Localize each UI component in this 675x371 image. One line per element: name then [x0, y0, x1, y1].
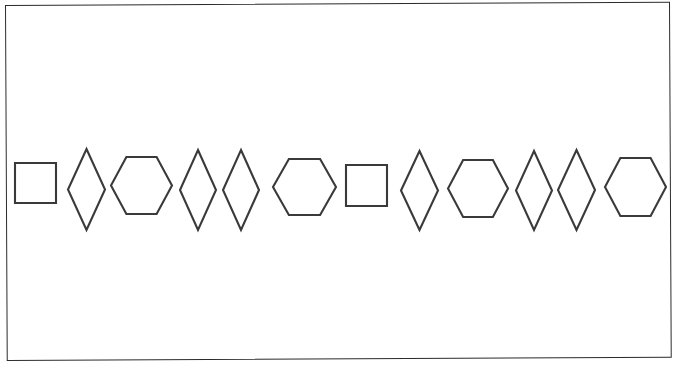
- diamond-shape: [400, 150, 439, 231]
- square-shape: [345, 164, 388, 207]
- hexagon-shape: [272, 158, 337, 216]
- diamond-shape: [222, 149, 260, 231]
- diamond-shape: [515, 150, 553, 231]
- hexagon-shape: [110, 156, 173, 215]
- hexagon-shape: [604, 157, 667, 217]
- shape-pattern-page: [0, 0, 675, 371]
- shape-sequence-row: [0, 0, 675, 371]
- diamond-shape: [179, 149, 217, 231]
- diamond-shape: [557, 149, 596, 231]
- hexagon-shape: [447, 159, 509, 218]
- diamond-shape: [67, 148, 106, 231]
- square-shape: [14, 162, 57, 204]
